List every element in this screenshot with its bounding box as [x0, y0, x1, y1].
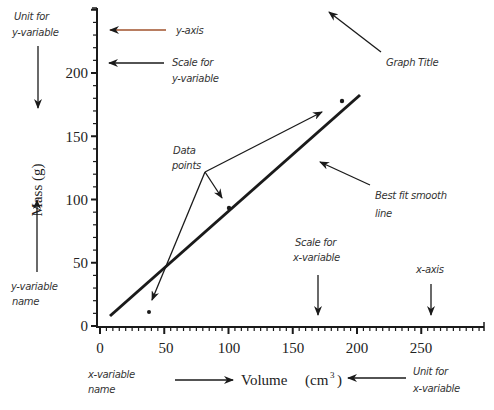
annotation-y-axis: y-axis — [175, 25, 203, 36]
annotation-scale-x-line1: Scale for — [295, 237, 337, 248]
x-axis-label-close: ) — [337, 372, 342, 389]
annotation-unit-y-line1: Unit for — [14, 11, 50, 22]
x-axis-label-name: Volume — [241, 372, 288, 388]
y-tick-100: 100 — [66, 192, 89, 208]
x-tick-150: 150 — [282, 340, 305, 356]
x-tick-100: 100 — [218, 340, 241, 356]
x-axis-label-sup: 3 — [330, 370, 335, 380]
annotation-x-name-line1: x-variable — [87, 369, 135, 380]
arrow-up-left-icon — [320, 162, 370, 185]
x-axis — [96, 322, 484, 334]
annotation-unit-x-line2: x-variable — [412, 383, 460, 394]
annotation-x-axis: x-axis — [415, 264, 444, 275]
x-tick-250: 250 — [410, 340, 433, 356]
annotation-scale-y-line2: y-variable — [171, 73, 219, 84]
annotation-y-name-line2: name — [12, 296, 39, 307]
arrow-up-left-icon — [329, 12, 381, 52]
y-tick-150: 150 — [66, 129, 89, 145]
annotation-best-fit-line2: line — [375, 208, 392, 219]
x-tick-50: 50 — [159, 340, 174, 356]
labeled-graph-diagram: 0 50 100 150 200 0 50 100 150 200 250 Ma… — [0, 0, 494, 410]
y-axis — [91, 8, 97, 327]
y-tick-200: 200 — [66, 65, 89, 81]
annotation-data-points-line1: Data — [173, 145, 196, 156]
y-tick-50: 50 — [73, 255, 88, 271]
data-points — [147, 99, 344, 314]
x-axis-label: Volume (cm 3 ) — [241, 370, 342, 389]
annotation-best-fit-line1: Best fit smooth — [375, 190, 447, 201]
y-tick-labels: 0 50 100 150 200 — [66, 65, 89, 334]
x-axis-label-unit: (cm — [305, 372, 329, 389]
annotation-scale-y-line1: Scale for — [172, 57, 214, 68]
x-tick-0: 0 — [96, 340, 104, 356]
annotation-unit-y-line2: y-variable — [11, 27, 59, 38]
pointer-line — [152, 172, 205, 300]
annotation-y-name-line1: y-variable — [10, 281, 58, 292]
annotation-unit-x-line1: Unit for — [413, 366, 449, 377]
data-point — [147, 310, 151, 314]
y-tick-0: 0 — [81, 318, 89, 334]
x-tick-200: 200 — [346, 340, 369, 356]
annotation-graph-title: Graph Title — [386, 57, 438, 68]
pointer-line — [205, 112, 322, 172]
annotation-scale-x-line2: x-variable — [292, 252, 340, 263]
data-point — [227, 206, 231, 210]
x-tick-labels: 0 50 100 150 200 250 — [96, 340, 432, 356]
annotation-data-points-line2: points — [171, 160, 201, 171]
best-fit-line — [110, 95, 360, 316]
annotation-x-name-line2: name — [88, 384, 115, 395]
data-point — [340, 99, 344, 103]
pointer-line — [205, 172, 222, 198]
